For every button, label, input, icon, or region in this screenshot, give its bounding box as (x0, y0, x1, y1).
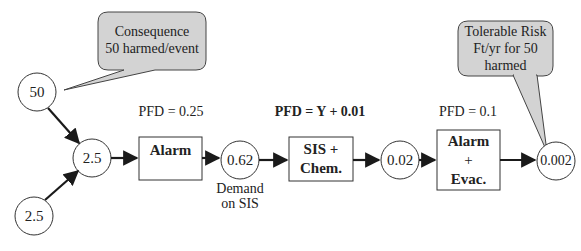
consequence-callout-line2: 50 harmed/event (98, 40, 206, 57)
consequence-node-value: 50 (18, 83, 56, 101)
sis-chem-line2: Chem. (289, 159, 353, 178)
initiating-top-value: 2.5 (73, 149, 111, 167)
tolerable-risk-line1: Tolerable Risk (458, 23, 553, 40)
demand-node-value: 0.62 (221, 151, 259, 169)
sis-chem-box-label: SIS + Chem. (289, 140, 353, 178)
tolerable-risk-line3: harmed (458, 57, 553, 74)
after-sis-node-value: 0.02 (381, 151, 419, 169)
sis-pfd-label: PFD = Y + 0.01 (260, 104, 380, 120)
tolerable-risk-callout: Tolerable Risk Ft/yr for 50 harmed (458, 23, 553, 74)
alarm-evac-line2: + (437, 151, 500, 170)
alarm-pfd-label: PFD = 0.25 (131, 104, 211, 120)
initiating-bottom-value: 2.5 (15, 207, 53, 225)
demand-label-line1: Demand (215, 181, 265, 196)
demand-on-sis-label: Demand on SIS (215, 181, 265, 211)
alarm-box-label: Alarm (139, 141, 202, 160)
sis-chem-line1: SIS + (289, 140, 353, 159)
alarm-evac-line3: Evac. (437, 170, 500, 189)
alarm-evac-line1: Alarm (437, 132, 500, 151)
demand-label-line2: on SIS (215, 196, 265, 211)
alarm-evac-box-label: Alarm + Evac. (437, 132, 500, 189)
alarm-evac-pfd-label: PFD = 0.1 (430, 104, 506, 120)
tolerable-risk-line2: Ft/yr for 50 (458, 40, 553, 57)
final-node-value: 0.002 (535, 152, 577, 170)
consequence-callout-line1: Consequence (98, 23, 206, 40)
consequence-callout: Consequence 50 harmed/event (98, 23, 206, 57)
